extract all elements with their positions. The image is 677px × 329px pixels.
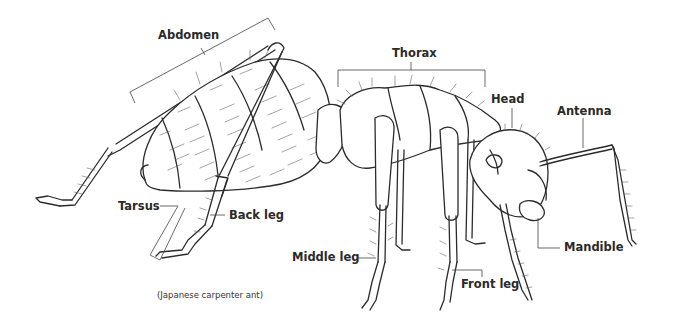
abdomen-shape	[141, 48, 331, 191]
label-abdomen: Abdomen	[158, 30, 219, 42]
thorax-bracket	[338, 62, 485, 87]
label-tarsus: Tarsus	[118, 201, 160, 213]
caption: (Japanese carpenter ant)	[157, 290, 263, 300]
front-leg-leader	[452, 270, 482, 277]
label-antenna: Antenna	[557, 106, 612, 118]
label-mandible: Mandible	[564, 242, 624, 254]
label-back-leg: Back leg	[229, 210, 284, 222]
label-middle-leg: Middle leg	[292, 252, 360, 264]
ant-illustration	[0, 0, 677, 329]
ant-anatomy-diagram: Abdomen Thorax Head Antenna Tarsus Back …	[0, 0, 677, 329]
mandible-leader	[538, 218, 560, 248]
label-head: Head	[491, 94, 524, 106]
label-front-leg: Front leg	[461, 279, 519, 291]
label-thorax: Thorax	[392, 48, 437, 60]
